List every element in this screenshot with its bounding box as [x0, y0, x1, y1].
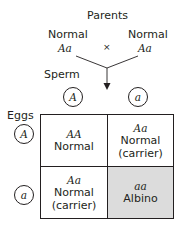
cell-aa: aa Albino — [108, 167, 173, 218]
cell-AA: AA Normal — [41, 115, 107, 166]
cell-genotype: Aa — [67, 174, 81, 186]
egg-allele-A: A — [14, 124, 34, 144]
cell-Aa-bottom: Aa Normal (carrier) — [41, 167, 107, 218]
cell-genotype: aa — [134, 180, 147, 192]
sperm-allele-a: a — [128, 87, 148, 107]
sperm-label: Sperm — [44, 69, 80, 81]
cell-note: (carrier) — [118, 147, 163, 160]
cell-note: (carrier) — [52, 199, 97, 212]
sperm-allele-A: A — [63, 87, 83, 107]
cell-phenotype: Albino — [123, 192, 157, 205]
cell-phenotype: Normal — [121, 134, 161, 147]
cell-phenotype: Normal — [54, 186, 94, 199]
cell-phenotype: Normal — [54, 140, 94, 153]
egg-allele-a: a — [14, 185, 34, 205]
cell-genotype: AA — [66, 128, 81, 140]
cell-Aa-top: Aa Normal (carrier) — [108, 115, 173, 166]
eggs-label: Eggs — [7, 110, 34, 122]
punnett-square: AA Normal Aa Normal (carrier) Aa Normal … — [40, 114, 174, 219]
cell-genotype: Aa — [134, 122, 148, 134]
